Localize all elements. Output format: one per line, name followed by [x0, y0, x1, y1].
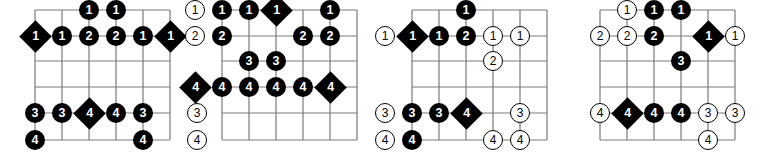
fret-marker-circle: 3: [671, 51, 691, 71]
fret-marker-label: 3: [678, 55, 685, 68]
fret-marker-label: 4: [678, 107, 685, 120]
fret-marker-label: 1: [732, 30, 739, 42]
fret-marker-circle: 2: [644, 26, 664, 46]
fret-marker-circle: 1: [644, 0, 664, 20]
fret-marker-label: 2: [597, 30, 604, 42]
fret-marker-label: 1: [678, 4, 685, 17]
fret-marker-circle: 4: [644, 103, 664, 123]
fret-marker-label: 1: [624, 4, 631, 16]
fret-marker-circle: 4: [671, 103, 691, 123]
fret-marker-label: 3: [732, 107, 739, 119]
fret-marker-hollow: 4: [590, 103, 610, 123]
fret-marker-circle: 1: [671, 0, 691, 20]
fret-marker-label: 2: [624, 30, 631, 42]
fret-marker-label: 1: [651, 4, 658, 17]
fret-marker-hollow: 2: [590, 26, 610, 46]
fret-marker-hollow: 4: [698, 130, 718, 150]
fret-marker-label: 4: [651, 107, 658, 120]
fret-marker-label: 2: [651, 30, 658, 43]
fret-marker-hollow: 3: [698, 103, 718, 123]
fret-marker-hollow: 1: [617, 0, 637, 20]
fret-marker-label: 4: [597, 107, 604, 119]
fret-marker-hollow: 1: [725, 26, 745, 46]
fret-marker-label: 3: [705, 107, 712, 119]
fret-marker-label: 1: [705, 30, 712, 43]
fret-marker-hollow: 3: [725, 103, 745, 123]
fret-marker-label: 4: [624, 107, 631, 120]
fret-marker-hollow: 2: [617, 26, 637, 46]
fret-marker-label: 4: [705, 134, 712, 146]
fretboard-grid: [0, 0, 772, 156]
fretboard-diagram-row: 1111221133443344411111222233444444111121…: [0, 0, 772, 156]
fretboard-diagram-4: 1112221134444334: [0, 0, 772, 156]
